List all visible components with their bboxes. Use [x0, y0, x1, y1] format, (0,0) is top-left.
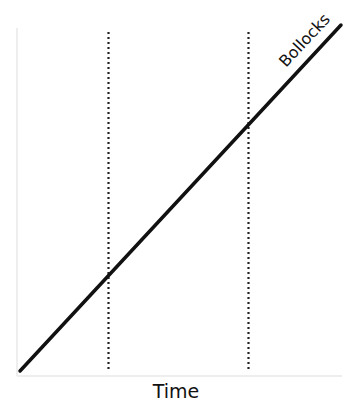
- chart-canvas: Bollocks: [0, 0, 352, 410]
- x-axis-label: Time: [0, 380, 352, 402]
- series-line-bollocks: [20, 25, 341, 371]
